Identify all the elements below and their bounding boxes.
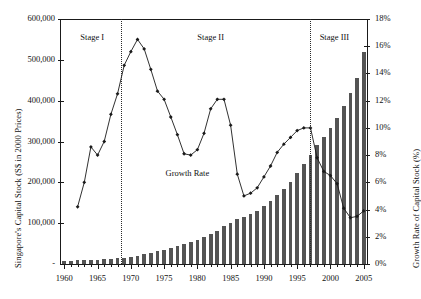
data-point-marker <box>76 205 80 209</box>
data-point-marker <box>315 156 319 160</box>
data-point-marker <box>129 50 133 54</box>
data-point-marker <box>109 112 113 116</box>
data-point-marker <box>222 97 226 101</box>
chart-figure: Singapore's Capital Stock (S$ in 2000 Pr… <box>0 0 421 299</box>
stage-2-label: Stage II <box>189 32 233 42</box>
divider-stage-1-2 <box>121 19 122 264</box>
data-point-marker <box>235 172 239 176</box>
data-point-marker <box>116 92 120 96</box>
data-point-marker <box>202 131 206 135</box>
divider-stage-2-3 <box>310 19 311 264</box>
data-point-marker <box>229 123 233 127</box>
data-point-marker <box>169 115 173 119</box>
line-series-growth-rate <box>0 0 421 299</box>
growth-rate-label: Growth Rate <box>165 168 209 178</box>
stage-1-label: Stage I <box>70 32 114 42</box>
data-point-marker <box>149 67 153 71</box>
data-point-marker <box>242 194 246 198</box>
data-point-marker <box>176 133 180 137</box>
data-point-marker <box>122 63 126 67</box>
stage-3-label: Stage III <box>312 32 356 42</box>
data-point-marker <box>182 152 186 156</box>
data-point-marker <box>82 180 86 184</box>
data-point-marker <box>102 140 106 144</box>
data-point-marker <box>302 126 306 130</box>
data-point-marker <box>322 170 326 174</box>
